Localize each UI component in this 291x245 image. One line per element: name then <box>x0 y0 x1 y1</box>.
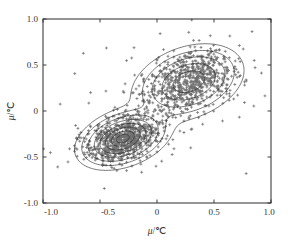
y-tick-label: -1.0 <box>24 198 39 208</box>
y-tick-label: 0 <box>34 106 39 116</box>
plot-panel <box>43 19 271 203</box>
x-tick-label: 0 <box>155 207 160 217</box>
y-tick-label: -0.5 <box>24 152 39 162</box>
x-tick-label: -0.5 <box>101 207 116 217</box>
scatter-plot: -1.0 -0.5 0 0.5 1.0 1.0 0.5 0 -0.5 -1.0 … <box>0 0 291 245</box>
y-tick-label: 0.5 <box>27 60 39 70</box>
x-tick-label: 0.5 <box>208 207 220 217</box>
x-tick-label: 1.0 <box>263 207 275 217</box>
y-tick-label: 1.0 <box>27 14 39 24</box>
x-tick-label: -1.0 <box>44 207 59 217</box>
x-axis-label: μ/℃ <box>147 226 166 236</box>
y-axis-label: μ/℃ <box>6 102 16 121</box>
figure-container: -1.0 -0.5 0 0.5 1.0 1.0 0.5 0 -0.5 -1.0 … <box>0 0 291 245</box>
